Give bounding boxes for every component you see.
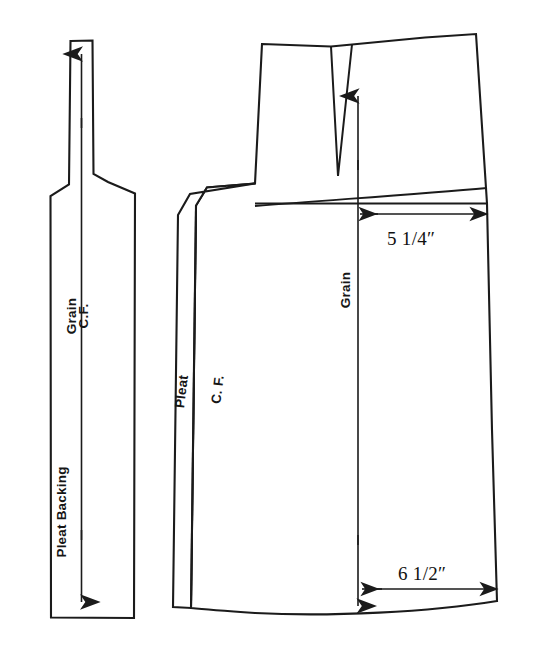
hem-width-value: 6 1/2″ (398, 563, 446, 584)
pleat-backing-grain-label: Grain (64, 298, 79, 334)
skirt-grain-label: Grain (338, 272, 353, 308)
pattern-diagram-canvas: C.F. Grain Pleat Backing Grain Pleat C. … (0, 0, 542, 656)
hip-width-value: 5 1/4″ (387, 228, 435, 249)
pleat-backing-name-label: Pleat Backing (54, 466, 69, 557)
pattern-diagram: C.F. Grain Pleat Backing Grain Pleat C. … (0, 0, 542, 656)
